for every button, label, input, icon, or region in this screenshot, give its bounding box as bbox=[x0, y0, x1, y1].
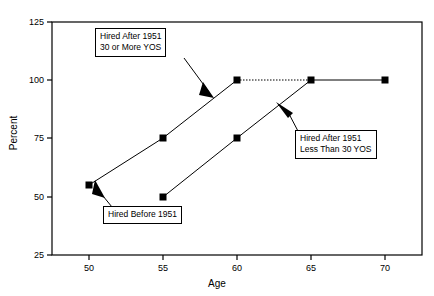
annotation-hired-after-1951-less-than-30: Hired After 1951 Less Than 30 YOS bbox=[295, 130, 377, 159]
x-axis-ticks bbox=[89, 255, 385, 260]
y-tick-label-100: 100 bbox=[22, 76, 44, 85]
arrowhead-before-1951 bbox=[92, 180, 105, 198]
y-tick-label-50: 50 bbox=[22, 193, 44, 202]
chart-figure: 125 100 75 50 25 50 55 60 65 70 Percent … bbox=[0, 0, 434, 296]
y-tick-label-125: 125 bbox=[22, 18, 44, 27]
x-tick-label-60: 60 bbox=[222, 264, 252, 273]
x-tick-label-70: 70 bbox=[370, 264, 400, 273]
x-axis-title: Age bbox=[0, 279, 434, 289]
annotation-hired-after-1951-30-or-more: Hired After 1951 30 or More YOS bbox=[95, 28, 166, 57]
series1-marker-55 bbox=[160, 135, 167, 142]
x-tick-label-55: 55 bbox=[148, 264, 178, 273]
annotation-line-1: Hired After 1951 bbox=[300, 133, 372, 144]
y-axis-title: Percent bbox=[9, 103, 19, 163]
series2-marker-60 bbox=[234, 135, 241, 142]
series1-solid-segment bbox=[89, 80, 237, 185]
annotation-line-2: Less Than 30 YOS bbox=[300, 144, 372, 155]
y-tick-label-25: 25 bbox=[22, 251, 44, 260]
annotation-line-1: Hired After 1951 bbox=[100, 31, 161, 42]
series2-marker-70 bbox=[382, 77, 389, 84]
series1-marker-60 bbox=[234, 77, 241, 84]
x-tick-label-65: 65 bbox=[296, 264, 326, 273]
x-tick-label-50: 50 bbox=[74, 264, 104, 273]
y-axis-ticks bbox=[47, 22, 52, 255]
series2-marker-65 bbox=[308, 77, 315, 84]
series2-marker-55 bbox=[160, 194, 167, 201]
annotation-line-1: Hired Before 1951 bbox=[108, 209, 177, 220]
series1-marker-50 bbox=[86, 182, 93, 189]
series-after-1951-30-or-more bbox=[86, 77, 312, 189]
annotation-line-2: 30 or More YOS bbox=[100, 42, 161, 53]
y-tick-label-75: 75 bbox=[22, 134, 44, 143]
annotation-hired-before-1951: Hired Before 1951 bbox=[103, 206, 182, 224]
arrowhead-after-30 bbox=[199, 82, 214, 98]
